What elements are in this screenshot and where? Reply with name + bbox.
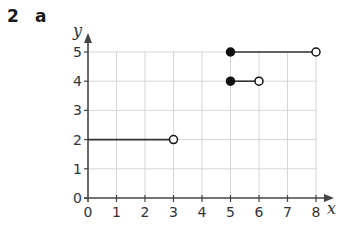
x-tick-label: 5	[226, 204, 235, 220]
open-dot-icon	[255, 77, 263, 85]
grid-lines	[88, 52, 316, 198]
x-tick-label: 1	[112, 204, 121, 220]
y-axis-arrow-icon	[84, 33, 92, 43]
open-dot-icon	[170, 136, 178, 144]
segment-3	[227, 48, 321, 56]
axes	[84, 33, 334, 202]
closed-dot-icon	[227, 48, 235, 56]
y-axis-label: y	[72, 21, 83, 40]
x-tick-label: 3	[169, 204, 178, 220]
y-tick-label: 3	[73, 102, 82, 118]
y-tick-label: 1	[73, 161, 82, 177]
y-tick-label: 0	[73, 190, 82, 206]
x-tick-label: 7	[283, 204, 292, 220]
closed-dot-icon	[227, 77, 235, 85]
step-function-chart: 012345678012345 x y	[0, 0, 341, 231]
segment-2	[227, 77, 264, 85]
tick-labels: 012345678012345	[73, 44, 320, 220]
segment-1	[88, 136, 178, 144]
x-tick-label: 4	[198, 204, 207, 220]
x-tick-label: 2	[141, 204, 150, 220]
y-tick-label: 2	[73, 132, 82, 148]
y-tick-label: 5	[73, 44, 82, 60]
open-dot-icon	[312, 48, 320, 56]
x-tick-label: 6	[255, 204, 264, 220]
x-tick-label: 0	[84, 204, 93, 220]
data-series	[88, 48, 320, 144]
y-tick-label: 4	[73, 73, 82, 89]
x-tick-label: 8	[312, 204, 321, 220]
x-axis-label: x	[327, 199, 336, 218]
